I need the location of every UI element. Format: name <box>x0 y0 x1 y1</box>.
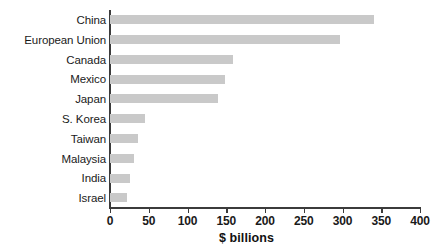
bar <box>110 134 138 143</box>
bar <box>110 35 340 44</box>
category-label: India <box>0 172 106 184</box>
category-label: European Union <box>0 34 106 46</box>
x-axis-tick-label: 0 <box>107 214 113 228</box>
bar-row <box>110 109 422 129</box>
x-axis-tick-label: 100 <box>178 214 197 228</box>
category-label: Israel <box>0 192 106 204</box>
x-axis-tick-label: 150 <box>217 214 236 228</box>
x-axis-tick-label: 50 <box>142 214 155 228</box>
bar-row <box>110 10 422 30</box>
x-axis-tick <box>420 208 421 213</box>
x-axis-tick-label: 350 <box>372 214 391 228</box>
bar <box>110 193 127 202</box>
x-axis-tick <box>188 208 189 213</box>
category-label: Malaysia <box>0 153 106 165</box>
bar-row <box>110 188 422 208</box>
x-axis-tick <box>304 208 305 213</box>
bar-row <box>110 69 422 89</box>
bar-row <box>110 30 422 50</box>
x-axis-title: $ billions <box>0 231 447 245</box>
x-axis-tick-label: 400 <box>410 214 429 228</box>
x-axis-tick-label: 250 <box>294 214 313 228</box>
category-label: Japan <box>0 93 106 105</box>
bar <box>110 15 374 24</box>
category-label: Canada <box>0 54 106 66</box>
x-axis-tick <box>265 208 266 213</box>
x-axis-tick <box>110 208 111 213</box>
bar-row <box>110 89 422 109</box>
bar <box>110 75 225 84</box>
x-axis-title-text: $ billions <box>219 231 274 245</box>
bar <box>110 94 218 103</box>
x-axis-tick <box>226 208 227 213</box>
x-axis-tick <box>149 208 150 213</box>
x-axis-tick <box>343 208 344 213</box>
bar <box>110 154 134 163</box>
category-label: Taiwan <box>0 133 106 145</box>
bar-row <box>110 50 422 70</box>
x-axis-tick-label: 300 <box>333 214 352 228</box>
bar-row <box>110 168 422 188</box>
category-label: Mexico <box>0 73 106 85</box>
bar-chart: ChinaEuropean UnionCanadaMexicoJapanS. K… <box>0 0 447 252</box>
category-label: China <box>0 14 106 26</box>
x-axis-tick-label: 200 <box>255 214 274 228</box>
category-label: S. Korea <box>0 113 106 125</box>
bar <box>110 114 145 123</box>
bar <box>110 55 233 64</box>
bar <box>110 174 130 183</box>
bar-row <box>110 129 422 149</box>
bar-row <box>110 149 422 169</box>
x-axis-tick <box>381 208 382 213</box>
